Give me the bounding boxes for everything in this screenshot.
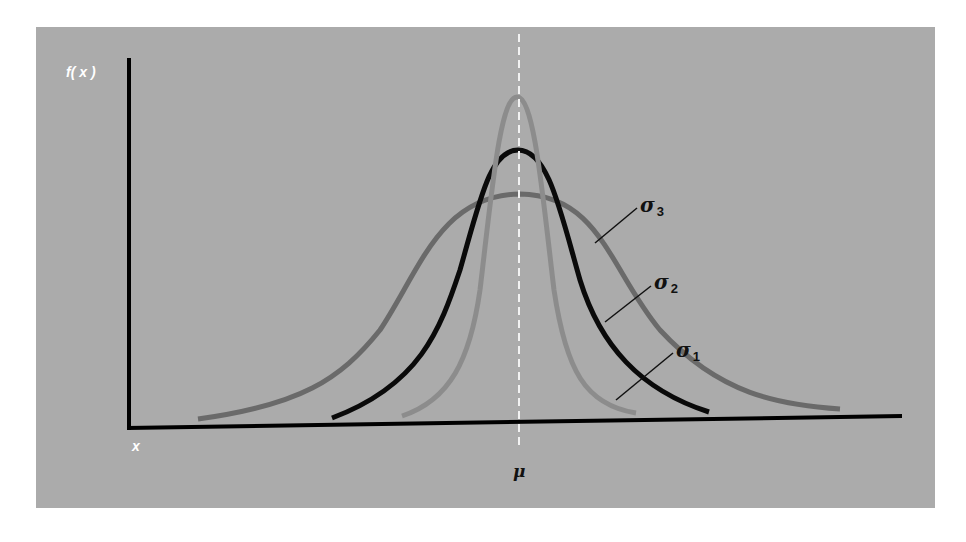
label-sigma1: σ1 — [676, 338, 700, 364]
label-sigma2: σ2 — [654, 270, 678, 296]
y-axis-label: f( x ) — [66, 64, 96, 80]
leader-sigma3 — [595, 208, 637, 243]
label-sigma3: σ3 — [640, 193, 664, 219]
x-axis — [127, 416, 902, 428]
mean-label: μ — [513, 461, 525, 481]
normal-distribution-plot — [0, 0, 966, 542]
x-axis-label: x — [132, 438, 140, 454]
curve-sigma2 — [332, 150, 709, 418]
